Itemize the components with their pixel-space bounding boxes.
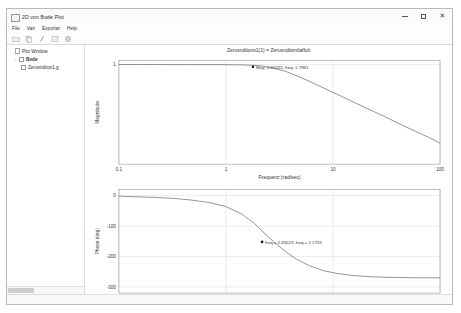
- close-icon: ✕: [440, 13, 446, 20]
- tree-item-zerusndtion1g[interactable]: Zerusndtion1.g: [9, 63, 84, 71]
- minimize-icon: [402, 16, 408, 17]
- minimize-button[interactable]: [395, 10, 414, 24]
- tree-item-zerusndtion1g-label: Zerusndtion1.g: [28, 65, 59, 70]
- data-annotation-label: Mag: 0.82225, freq: 1.7881: [256, 65, 309, 70]
- chart-panel-phase: 0.11101000-100-200-300Frequenz (rad/sec)…: [95, 190, 444, 294]
- xtick-label: 0.1: [116, 167, 123, 172]
- tree-horizontal-scrollbar[interactable]: [7, 286, 84, 294]
- window-controls: ✕: [395, 9, 452, 24]
- title-bar: 2D von Bode Plot ✕: [7, 9, 452, 24]
- open-icon[interactable]: [12, 35, 20, 43]
- document-icon: [15, 48, 20, 54]
- axis-frame: [119, 61, 440, 165]
- yaxis-label: Phase (deg): [95, 228, 100, 255]
- menu-view[interactable]: Vari: [27, 26, 35, 31]
- tree-item-plot-window[interactable]: Plot Window: [9, 47, 84, 55]
- data-curve-magnitude: [119, 65, 440, 144]
- window-frame: 2D von Bode Plot ✕ File Vari Exportar He…: [6, 8, 453, 305]
- tree-item-plot-window-label: Plot Window: [22, 49, 48, 54]
- status-bar: [7, 294, 452, 304]
- data-marker: [261, 241, 264, 244]
- tree-item-bode-checkbox[interactable]: [19, 57, 24, 62]
- bode-plot-svg[interactable]: 0.11101001Frequenz (rad/sec)MagnitudeMag…: [85, 45, 452, 294]
- scrollbar-thumb[interactable]: [8, 288, 34, 293]
- grid-icon[interactable]: [51, 35, 59, 43]
- copy-icon[interactable]: [25, 35, 33, 43]
- data-annotation-label: freq = 2.83223, freq = 2.1759: [265, 240, 322, 245]
- window-body: Plot Window − Bode Zerusndtion1.g: [7, 45, 452, 294]
- xtick-label: 1: [225, 167, 228, 172]
- application-window: 2D von Bode Plot ✕ File Vari Exportar He…: [0, 0, 461, 313]
- data-curve-phase: [119, 196, 440, 278]
- tree-scroll-region: Plot Window − Bode Zerusndtion1.g: [7, 45, 84, 286]
- maximize-button[interactable]: [414, 10, 433, 24]
- data-marker: [252, 66, 255, 69]
- toolbar: [7, 33, 452, 45]
- menu-bar: File Vari Exportar Help: [7, 24, 452, 33]
- ytick-label: 0: [113, 193, 116, 198]
- xtick-label: 100: [436, 167, 444, 172]
- menu-export[interactable]: Exportar: [42, 26, 60, 31]
- close-button[interactable]: ✕: [433, 10, 452, 24]
- tree-item-bode-label: Bode: [26, 57, 37, 62]
- window-title: 2D von Bode Plot: [22, 14, 64, 20]
- tree-item-zerusndtion1g-checkbox[interactable]: [21, 65, 26, 70]
- tree-item-bode[interactable]: − Bode: [9, 55, 84, 63]
- tree-panel: Plot Window − Bode Zerusndtion1.g: [7, 45, 85, 294]
- ytick-label: 1: [113, 62, 116, 67]
- maximize-icon: [421, 14, 426, 19]
- menu-help[interactable]: Help: [67, 26, 77, 31]
- ytick-label: -300: [107, 285, 117, 290]
- xtick-label: 10: [330, 167, 336, 172]
- ytick-label: -100: [107, 224, 117, 229]
- gear-icon[interactable]: [64, 35, 72, 43]
- menu-file[interactable]: File: [12, 26, 20, 31]
- window-plot-icon: [11, 13, 19, 21]
- chart-panel-magnitude: 0.11101001Frequenz (rad/sec)MagnitudeMag…: [95, 61, 444, 180]
- yaxis-label: Magnitude: [95, 101, 100, 124]
- xaxis-label: Frequenz (rad/sec): [258, 175, 300, 180]
- collapse-expander-icon[interactable]: −: [13, 57, 18, 62]
- plot-area: Zerusndtions1(1) = Zerusndtiontlaffuit 0…: [85, 45, 452, 294]
- ytick-label: -200: [107, 254, 117, 259]
- cursor-icon[interactable]: [38, 35, 46, 43]
